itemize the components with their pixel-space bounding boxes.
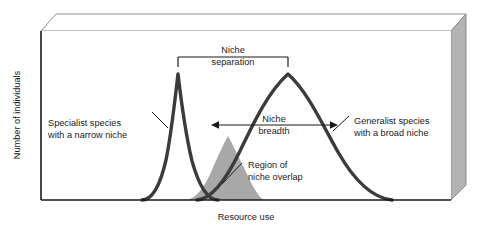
niche-separation-label-line2: separation [212, 57, 255, 67]
region-of-niche-overlap-label-line1: Region of [248, 160, 288, 170]
generalist-species-label-line1: Generalist species [354, 116, 430, 126]
niche-breadth-label-line2: breadth [258, 126, 289, 136]
figure-canvas: Niche separation Niche breadth Specialis… [0, 0, 490, 234]
y-axis-label: Number of individuals [12, 70, 22, 159]
box-side-panel [451, 14, 466, 200]
specialist-species-label-line1: Specialist species [48, 118, 121, 128]
niche-separation-label-line1: Niche [221, 45, 245, 55]
generalist-species-label-line2: with a broad niche [353, 128, 429, 138]
specialist-species-label-line2: with a narrow niche [47, 130, 127, 140]
x-axis-label: Resource use [218, 212, 275, 222]
niche-breadth-label-line1: Niche [262, 114, 286, 124]
niche-separation-figure: Niche separation Niche breadth Specialis… [0, 0, 490, 234]
box-top-panel [41, 14, 466, 31]
region-of-niche-overlap-label-line2: niche overlap [248, 172, 303, 182]
